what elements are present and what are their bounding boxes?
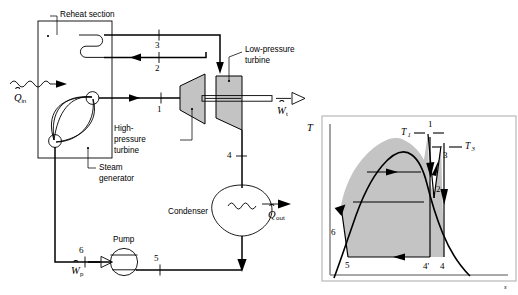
ts-T3-label: T (465, 141, 471, 151)
ts-state-label-3: 3 (443, 150, 448, 160)
ts-y-axis-label: T (307, 122, 314, 133)
ts-diagram: T s (0, 0, 518, 295)
ts-T1-label: T (401, 127, 407, 137)
ts-T3-subscript: 3 (471, 145, 476, 152)
ts-cycle-shaded-area (341, 133, 444, 257)
ts-T1-subscript: 1 (408, 131, 411, 138)
ts-state-label-5: 5 (345, 260, 350, 270)
ts-state-label-4p: 4' (423, 261, 430, 271)
ts-state-label-1: 1 (428, 119, 433, 129)
ts-state-label-4: 4 (440, 261, 445, 271)
figure-root: Q in Reheat section Steam generator 1 2 (0, 0, 518, 295)
ts-state-label-6: 6 (331, 227, 336, 237)
ts-x-axis-label: s (504, 283, 507, 290)
ts-state-label-2: 2 (436, 184, 441, 194)
